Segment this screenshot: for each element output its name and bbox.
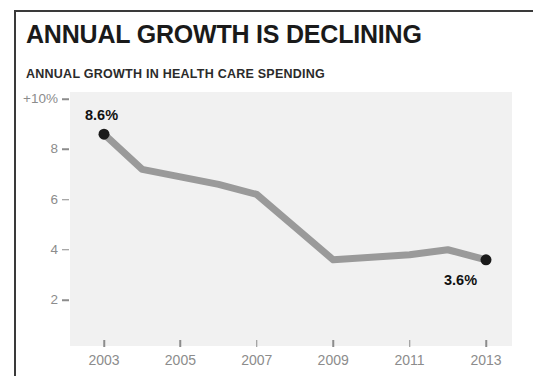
data-point-markers [99,129,492,266]
data-line [104,134,486,260]
data-point-label-end-value: 3.6% [444,273,477,288]
data-point-marker [481,254,492,265]
chart-figure: ANNUAL GROWTH IS DECLINING ANNUAL GROWTH… [0,0,533,386]
data-point-label-start-value: 8.6% [85,108,118,123]
chart-line-layer [0,0,533,386]
data-point-marker [99,129,110,140]
